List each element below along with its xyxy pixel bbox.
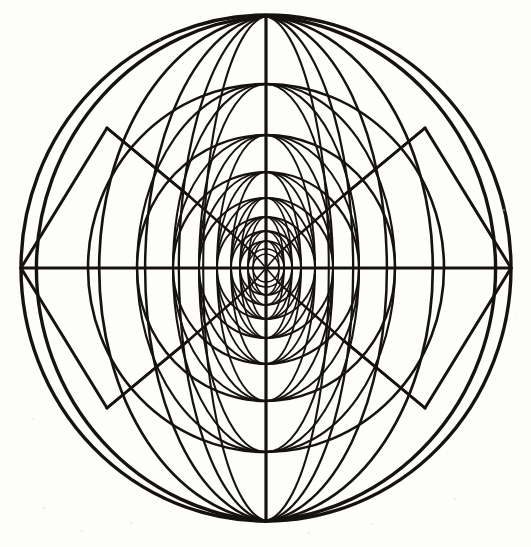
- speckle: [308, 532, 310, 534]
- speckle: [239, 469, 241, 471]
- speckle: [43, 507, 45, 509]
- speckle: [371, 523, 373, 525]
- speckle: [454, 498, 456, 500]
- speckle: [81, 530, 83, 532]
- speckle: [299, 429, 301, 431]
- speckle: [516, 314, 518, 316]
- figure-root: [0, 0, 531, 547]
- sphere-diagram: [0, 0, 531, 547]
- speckle: [32, 418, 34, 420]
- speckle: [503, 209, 505, 211]
- speckle: [25, 365, 27, 367]
- axis-group: [21, 16, 511, 521]
- speckle: [195, 535, 197, 537]
- speckle: [130, 522, 132, 524]
- speckle: [399, 47, 401, 49]
- speckle: [159, 39, 161, 41]
